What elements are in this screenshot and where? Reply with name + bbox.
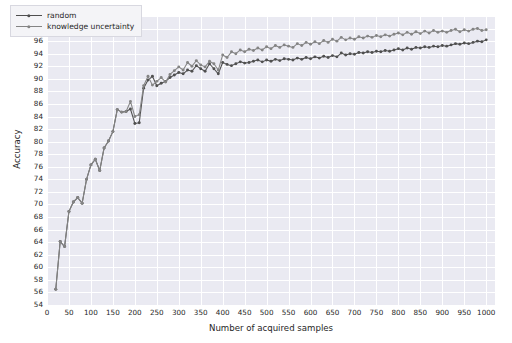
x-tick-label: 550 [282, 309, 296, 316]
data-point [366, 35, 369, 38]
y-tick-label: 72 [34, 188, 43, 195]
x-axis-label: Number of acquired samples [47, 323, 495, 333]
data-point [428, 46, 431, 49]
data-point [81, 202, 84, 205]
data-point [463, 42, 466, 45]
data-point [182, 69, 185, 72]
data-point [239, 48, 242, 51]
y-tick-label: 60 [34, 264, 43, 271]
data-point [441, 30, 444, 33]
x-tick-label: 300 [172, 309, 186, 316]
data-point [410, 48, 413, 51]
data-point [292, 46, 295, 49]
data-point [138, 113, 141, 116]
y-tick-label: 54 [34, 301, 43, 308]
data-point [309, 43, 312, 46]
x-tick-label: 150 [106, 309, 120, 316]
data-point [379, 35, 382, 38]
data-point [414, 46, 417, 49]
data-point [362, 52, 365, 55]
data-point [217, 72, 220, 75]
data-point [265, 45, 268, 48]
x-tick-label: 250 [150, 309, 164, 316]
data-point [432, 29, 435, 32]
y-axis-label: Accuracy [12, 99, 22, 199]
data-point [305, 41, 308, 44]
data-point [406, 31, 409, 34]
x-tick-label: 450 [238, 309, 252, 316]
x-tick-label: 600 [304, 309, 318, 316]
data-point [379, 50, 382, 53]
data-point [239, 60, 242, 63]
data-point [270, 47, 273, 50]
data-point [318, 57, 321, 60]
data-point [428, 32, 431, 35]
data-point [169, 73, 172, 76]
data-point [335, 55, 338, 58]
data-point [107, 140, 110, 143]
data-point [151, 75, 154, 78]
data-point [432, 45, 435, 48]
data-point [63, 245, 66, 248]
data-point [371, 51, 374, 54]
data-point [305, 56, 308, 59]
x-tick-label: 500 [260, 309, 274, 316]
data-point [467, 30, 470, 33]
data-point [340, 52, 343, 55]
data-point [186, 61, 189, 64]
data-point [393, 33, 396, 36]
legend-item-knowledge-uncertainty: knowledge uncertainty [16, 21, 134, 32]
data-point [173, 74, 176, 77]
data-point [270, 60, 273, 63]
y-tick-label: 70 [34, 201, 43, 208]
data-point [173, 69, 176, 72]
data-point [76, 196, 79, 199]
data-point [322, 55, 325, 58]
x-tick-label: 750 [370, 309, 384, 316]
data-point [340, 36, 343, 39]
data-point [212, 62, 215, 65]
data-point [221, 54, 224, 57]
data-point [349, 37, 352, 40]
data-point [362, 37, 365, 40]
data-point [155, 80, 158, 83]
data-point [313, 40, 316, 43]
data-point [265, 59, 268, 62]
data-point [59, 240, 62, 243]
data-point [344, 54, 347, 57]
data-point [177, 71, 180, 74]
data-point [248, 48, 251, 51]
data-point [252, 49, 255, 52]
data-point [186, 69, 189, 72]
data-point [226, 56, 229, 59]
series-random [54, 38, 487, 290]
data-point [423, 45, 426, 48]
figure: 5456586062646668707274767880828486889092… [0, 0, 512, 343]
data-point [436, 31, 439, 34]
y-tick-label: 64 [34, 239, 43, 246]
data-point [199, 64, 202, 67]
data-point [296, 42, 299, 45]
data-point [125, 110, 128, 113]
data-point [480, 29, 483, 32]
data-point [384, 49, 387, 52]
data-point [300, 58, 303, 61]
data-point [195, 64, 198, 67]
x-tick-label: 900 [435, 309, 449, 316]
data-point [388, 50, 391, 53]
data-point [195, 59, 198, 62]
data-point [327, 41, 330, 44]
y-tick-label: 78 [34, 151, 43, 158]
data-lines [47, 16, 495, 305]
y-tick-label: 88 [34, 88, 43, 95]
data-point [261, 60, 264, 63]
data-point [410, 33, 413, 36]
data-point [419, 47, 422, 50]
data-point [476, 40, 479, 43]
data-point [221, 61, 224, 64]
data-point [322, 39, 325, 42]
data-point [401, 33, 404, 36]
data-point [397, 47, 400, 50]
y-tick-label: 56 [34, 289, 43, 296]
data-point [278, 46, 281, 49]
